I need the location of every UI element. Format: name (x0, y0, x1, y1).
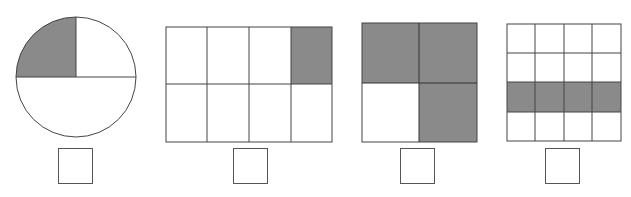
answer-box-square-2x2[interactable] (400, 148, 435, 184)
answer-box-rect-4x2[interactable] (233, 148, 268, 184)
answer-box-grid-4x4[interactable] (545, 148, 580, 184)
figure-rect-4x2 (166, 27, 332, 142)
circle-shaded-quarter (16, 17, 76, 77)
answer-box-circle[interactable] (58, 148, 93, 184)
figure-circle (16, 17, 136, 137)
square-shaded-bottom-right (419, 83, 477, 142)
rect-shaded-cell (291, 27, 332, 84)
figure-square-2x2 (362, 23, 477, 142)
fraction-figures (0, 0, 631, 197)
figure-grid-4x4 (507, 24, 621, 141)
